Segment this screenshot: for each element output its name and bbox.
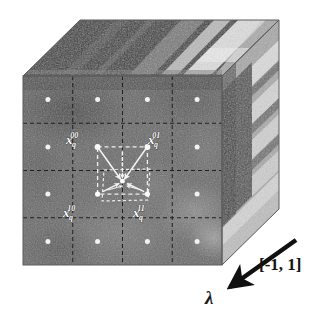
label-01-sup: 01 bbox=[152, 131, 160, 140]
label-00-sup: 00 bbox=[70, 131, 78, 140]
label-11-sub: q bbox=[139, 213, 143, 222]
sample-dot-11 bbox=[145, 192, 150, 197]
sample-dot-00 bbox=[95, 144, 101, 150]
cube-diagram-svg: xq00 xq01 xq10 xq11 λ [-1, 1] bbox=[0, 0, 334, 318]
sample-dot-center bbox=[120, 179, 125, 184]
sample-dot-10 bbox=[95, 192, 100, 197]
label-11-sup: 11 bbox=[137, 204, 145, 213]
lambda-symbol: λ bbox=[204, 287, 213, 308]
label-00-sub: q bbox=[72, 140, 76, 149]
range-label: [-1, 1] bbox=[259, 255, 301, 274]
figure-canvas: xq00 xq01 xq10 xq11 λ [-1, 1] bbox=[0, 0, 334, 318]
label-10-sup: 10 bbox=[67, 204, 75, 213]
cube-front-face bbox=[10, 68, 240, 276]
label-01-sub: q bbox=[154, 140, 158, 149]
label-10-sub: q bbox=[69, 213, 73, 222]
